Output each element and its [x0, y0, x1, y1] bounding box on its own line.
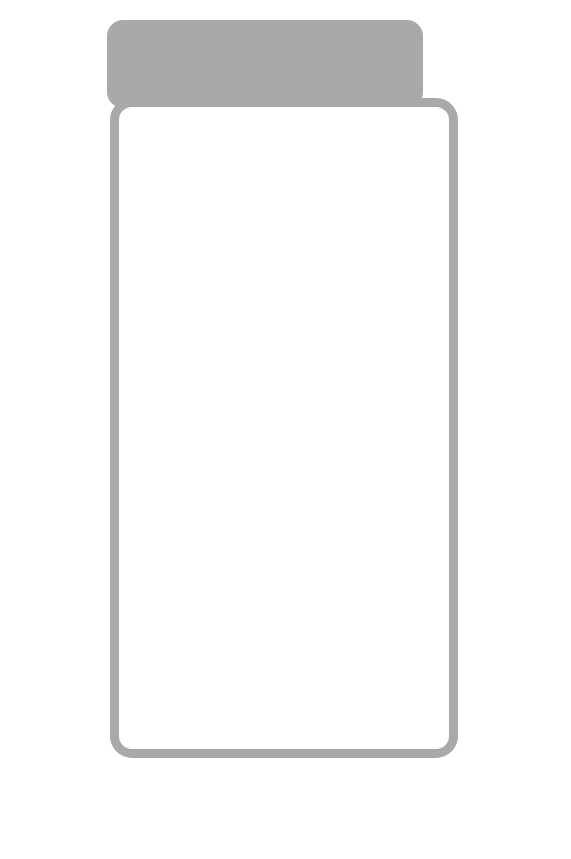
page-edge-artifact [388, 846, 564, 854]
chart-title-banner [107, 20, 423, 108]
y-axis-tick-labels [46, 0, 102, 859]
x-axis-tick-labels [0, 779, 571, 809]
plot-frame-border [110, 98, 458, 758]
bmi-chart-figure [0, 0, 571, 859]
